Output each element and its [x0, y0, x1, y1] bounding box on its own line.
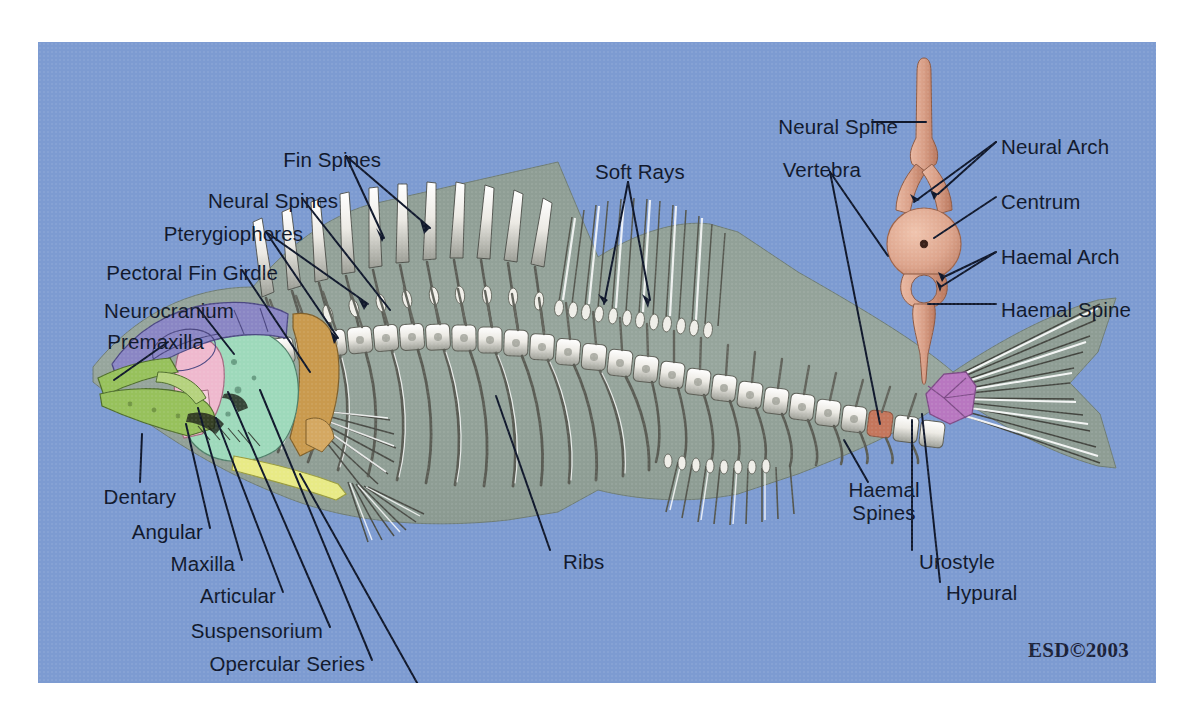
- label-maxilla: Maxilla: [38, 552, 235, 575]
- label-neural-spines: Neural Spines: [38, 189, 338, 212]
- label-urostyle: Urostyle: [919, 550, 995, 573]
- label-angular: Angular: [38, 520, 203, 543]
- label-centrum: Centrum: [1001, 190, 1080, 213]
- label-premaxilla: Premaxilla: [38, 330, 204, 353]
- label-haemal-arch: Haemal Arch: [1001, 245, 1119, 268]
- label-pterygiophores: Pterygiophores: [38, 222, 303, 245]
- label-neural-spine: Neural Spine: [638, 115, 898, 138]
- label-haemal-spines: Haemal Spines: [824, 478, 944, 524]
- label-haemal-spine: Haemal Spine: [1001, 298, 1131, 321]
- label-ribs: Ribs: [563, 550, 604, 573]
- label-hypural: Hypural: [946, 581, 1017, 604]
- caudal-fin: [926, 298, 1116, 468]
- label-suspensorium: Suspensorium: [38, 619, 323, 642]
- illustration-stage: Fin Spines Neural Spines Pterygiophores …: [0, 0, 1188, 714]
- copyright-credit: ESD©2003: [1028, 638, 1129, 663]
- label-opercular-series: Opercular Series: [38, 652, 365, 675]
- label-neural-arch: Neural Arch: [1001, 135, 1109, 158]
- label-articular: Articular: [38, 584, 276, 607]
- label-vertebra: Vertebra: [638, 158, 861, 181]
- label-neurocranium: Neurocranium: [38, 299, 234, 322]
- label-pectoral-fin-girdle: Pectoral Fin Girdle: [38, 261, 278, 284]
- diagram-panel: Fin Spines Neural Spines Pterygiophores …: [38, 42, 1156, 683]
- label-dentary: Dentary: [38, 485, 176, 508]
- label-fin-spines: Fin Spines: [38, 148, 381, 171]
